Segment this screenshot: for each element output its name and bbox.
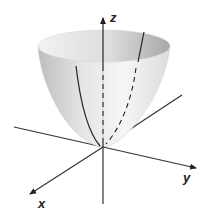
paraboloid-rim xyxy=(38,30,170,62)
x-axis-label: x xyxy=(37,196,46,211)
z-axis-label: z xyxy=(109,10,117,25)
paraboloid-diagram: z y x xyxy=(0,0,208,216)
y-axis xyxy=(103,147,196,168)
x-axis xyxy=(30,147,103,194)
y-axis-label: y xyxy=(182,170,191,185)
